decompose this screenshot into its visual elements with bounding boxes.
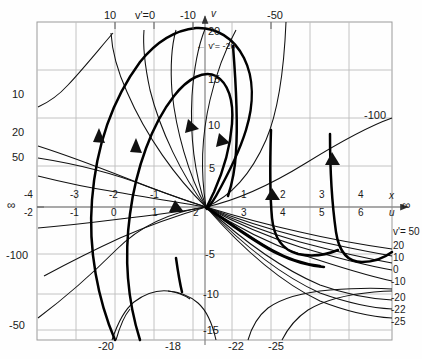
left-label-minus-50: -50 bbox=[9, 320, 25, 331]
u-axis-label: u bbox=[389, 208, 395, 218]
right-label-minus-100: -100 bbox=[364, 110, 386, 121]
u-upper-tick-minus-3: -3 bbox=[70, 190, 79, 200]
v-tick-10: 10 bbox=[208, 120, 220, 131]
bottom-label-minus-25: -25 bbox=[268, 341, 284, 352]
u-lower-tick-3: 3 bbox=[241, 208, 247, 218]
left-label-20: 20 bbox=[12, 127, 24, 138]
top-label-minus-10: -10 bbox=[180, 10, 196, 21]
u-upper-tick-3: 3 bbox=[319, 190, 325, 200]
bottom-label-minus-20: -20 bbox=[98, 341, 114, 352]
right-infinity-symbol: ∞ bbox=[402, 199, 411, 211]
v-tick-minus-5: -5 bbox=[205, 249, 215, 260]
right-curve-label-minus-22: -22 bbox=[391, 305, 405, 315]
x-axis-label: x bbox=[389, 191, 394, 201]
u-upper-tick-4: 4 bbox=[358, 190, 364, 200]
vprime-minus-20-annotation: ← v'= -20 bbox=[196, 41, 236, 51]
u-lower-tick-4: 4 bbox=[280, 208, 286, 218]
vprime-minus-20-text: v'= -20 bbox=[209, 41, 236, 51]
u-lower-tick-minus-1: -1 bbox=[70, 208, 79, 218]
v-tick-15: 15 bbox=[208, 74, 220, 85]
v-tick-5: 5 bbox=[209, 163, 215, 174]
v-axis-label: v bbox=[211, 9, 216, 19]
u-lower-tick-5: 5 bbox=[319, 208, 325, 218]
right-curve-label-minus-20: -20 bbox=[391, 293, 405, 303]
right-curve-label-0: 0 bbox=[393, 265, 399, 275]
bottom-label-minus-18: -18 bbox=[165, 341, 181, 352]
top-label-minus-50: -50 bbox=[267, 10, 283, 21]
u-upper-tick-2: 2 bbox=[280, 190, 286, 200]
right-curve-label-vprime-50: v'= 50 bbox=[393, 227, 420, 237]
u-upper-tick-1: 1 bbox=[241, 190, 247, 200]
axis-lines bbox=[37, 16, 408, 345]
bottom-label-minus-22: -22 bbox=[228, 341, 244, 352]
u-upper-tick-minus-2: -2 bbox=[109, 190, 118, 200]
right-curve-label-minus-10: -10 bbox=[391, 277, 405, 287]
left-arrow-icon: ← bbox=[196, 40, 206, 51]
left-infinity-symbol: ∞ bbox=[7, 199, 16, 211]
right-curve-label-minus-25: -25 bbox=[391, 317, 405, 327]
u-lower-tick-minus-2: -2 bbox=[24, 208, 33, 218]
u-lower-tick-2: 2 bbox=[193, 208, 199, 218]
left-label-10: 10 bbox=[12, 89, 24, 100]
top-label-10: 10 bbox=[104, 10, 116, 21]
v-tick-20: 20 bbox=[208, 26, 220, 37]
top-label-vprime-0: v'=0 bbox=[135, 10, 155, 21]
left-label-50: 50 bbox=[12, 152, 24, 163]
v-tick-minus-15: -15 bbox=[203, 325, 219, 336]
right-curve-label-20: 20 bbox=[393, 241, 404, 251]
left-label-minus-100: -100 bbox=[6, 250, 28, 261]
u-lower-tick-6: 6 bbox=[358, 208, 364, 218]
u-lower-tick-0: 0 bbox=[111, 208, 117, 218]
figure-container: 10 v'=0 -10 -50 v 20 15 10 5 -5 -10 -15 … bbox=[0, 0, 422, 359]
v-tick-minus-10: -10 bbox=[203, 289, 219, 300]
u-lower-tick-1: 1 bbox=[152, 208, 158, 218]
chart-canvas bbox=[0, 0, 422, 359]
u-upper-tick-minus-4: -4 bbox=[24, 190, 33, 200]
right-curve-label-10: 10 bbox=[393, 253, 404, 263]
direction-arrows bbox=[93, 119, 340, 212]
u-upper-tick-minus-1: -1 bbox=[150, 190, 159, 200]
